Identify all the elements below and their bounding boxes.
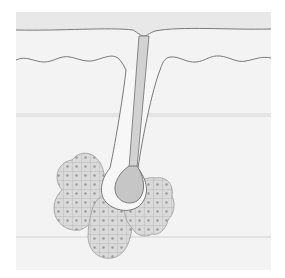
hair-follicle-diagram	[0, 0, 285, 278]
